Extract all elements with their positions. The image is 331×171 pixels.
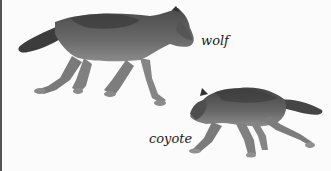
coyote-figure <box>189 88 322 158</box>
illustration-frame: wolf coyote <box>0 0 331 171</box>
coyote-label: coyote <box>149 131 192 146</box>
wolf-label: wolf <box>201 33 229 48</box>
wolf-figure <box>18 6 193 106</box>
